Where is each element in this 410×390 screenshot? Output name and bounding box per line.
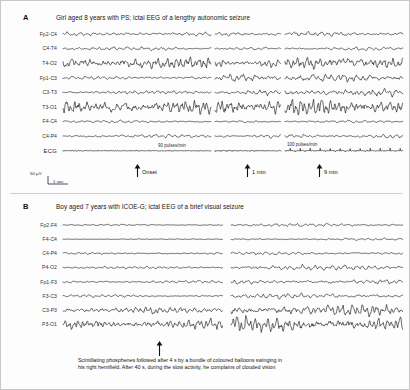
panel-b: B Boy aged 7 years with ICOE-G; ictal EE… [1, 193, 410, 390]
trace-f3-c3-seg2 [231, 293, 403, 299]
trace-c4-p4-seg2 [215, 135, 280, 139]
caption-line-1: Scintillating phosphenes followed after … [78, 357, 282, 364]
marker-label-1-min: 1 min [252, 169, 266, 175]
scale-time-label: 1 sec [53, 179, 64, 184]
trace-f4-c4-seg1 [63, 239, 223, 240]
caption-line-2: his right hemifield. After 40 s, during … [78, 364, 275, 371]
trace-fp1-c3-seg3 [285, 74, 403, 82]
trace-f3-c3-seg1 [63, 294, 223, 297]
trace-c3-p3-seg1 [63, 307, 223, 314]
trace-t4-o2-seg3 [285, 57, 403, 69]
trace-t4-o2-seg1 [63, 57, 211, 69]
trace-fp1-f3-seg2 [231, 280, 403, 284]
trace-t3-o1-seg3 [285, 99, 403, 115]
trace-c4-p4-seg2 [231, 252, 403, 255]
scale-amplitude-label: 50 µV [30, 171, 42, 176]
trace-fp2-f4-seg2 [231, 223, 403, 226]
trace-c4-p4-seg1 [63, 134, 211, 137]
trace-c3-p3-seg2 [231, 305, 403, 318]
trace-c3-t3-seg2 [215, 90, 280, 96]
marker-arrow-9-min [316, 163, 323, 181]
pulse-rate-label-2: 100 pulses/min [287, 142, 317, 147]
trace-fp1-c3-seg1 [63, 76, 211, 79]
marker-arrow-1-min [244, 163, 251, 181]
trace-c4-t4-seg2 [215, 47, 280, 50]
trace-fp2-c4-seg1 [63, 32, 211, 36]
trace-p4-o2-seg1 [63, 266, 223, 269]
trace-fp1-c3-seg2 [215, 74, 280, 81]
marker-label-9-min: 9 min [324, 169, 338, 175]
trace-t4-o2-seg2 [215, 60, 280, 68]
trace-c3-t3-seg1 [63, 91, 211, 94]
trace-fp1-f3-seg1 [63, 280, 223, 283]
trace-c4-t4-seg1 [63, 47, 211, 51]
trace-f4-c4-seg3 [285, 120, 403, 123]
trace-f4-c4-seg2 [231, 238, 403, 240]
trace-p4-o2-seg2 [231, 264, 403, 270]
trace-ecg-seg2 [215, 150, 281, 151]
trace-p3-o1-seg1 [63, 318, 223, 329]
trace-t3-o1-seg1 [63, 100, 211, 114]
trace-fp2-f4-seg1 [63, 224, 223, 225]
trace-fp2-c4-seg3 [285, 31, 403, 36]
trace-c4-p4-seg3 [285, 134, 403, 138]
panel-a: A Girl aged 8 years with PS; ictal EEG o… [1, 1, 410, 193]
panel-a-traces [1, 1, 410, 193]
marker-arrow-onset [134, 163, 141, 181]
marker-label-onset: Onset [142, 169, 157, 175]
trace-ecg-seg1 [63, 150, 211, 151]
trace-t3-o1-seg2 [215, 101, 280, 114]
trace-f4-c4-seg2 [215, 121, 280, 123]
eeg-figure: A Girl aged 8 years with PS; ictal EEG o… [0, 0, 410, 390]
trace-p3-o1-seg2 [231, 316, 403, 333]
trace-c3-t3-seg3 [285, 88, 403, 97]
trace-ecg-seg3 [285, 148, 403, 152]
trace-c4-t4-seg3 [285, 47, 403, 51]
pulse-rate-label-1: 90 pulses/min [158, 143, 186, 148]
trace-c4-p4-seg1 [63, 252, 223, 254]
trace-f4-c4-seg1 [63, 120, 211, 123]
trace-fp2-c4-seg2 [215, 32, 280, 36]
